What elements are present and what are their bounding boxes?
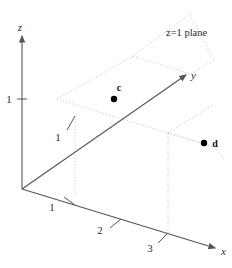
plane-edge-lower-right-diag (168, 104, 214, 133)
coordinate-diagram: z y x 1 1 1 2 3 c d z=1 plane (0, 0, 232, 268)
tick-label-z-1: 1 (6, 93, 12, 105)
tick-y-1 (67, 116, 75, 130)
base-plane-dotted-lines (168, 133, 214, 147)
z-axis-label: z (17, 21, 23, 33)
plane-inner-edge-top (133, 56, 191, 74)
tick-x-2 (110, 219, 121, 228)
z1-plane-annotation: z=1 plane (166, 27, 208, 38)
base-line-to-d-right (168, 133, 214, 147)
point-d-label: d (212, 138, 218, 149)
tick-x-3 (158, 233, 168, 243)
plane-edge-front-mid (112, 116, 168, 133)
tick-label-x-2: 2 (97, 224, 103, 236)
tick-marks (17, 99, 168, 243)
point-c-label: c (117, 82, 122, 93)
y-axis (22, 75, 186, 189)
vertical-dotted-droppers (75, 116, 168, 236)
point-d-dot (201, 140, 207, 146)
plane-edge-back-left (57, 56, 133, 99)
x-axis (22, 189, 215, 248)
tick-label-x-1: 1 (49, 201, 55, 213)
plane-edge-front-left (57, 99, 112, 116)
point-c-dot (111, 96, 117, 102)
tick-label-x-3: 3 (147, 242, 153, 254)
x-axis-label: x (220, 245, 226, 257)
figure-container: z y x 1 1 1 2 3 c d z=1 plane (0, 0, 232, 268)
y-axis-label: y (190, 69, 196, 81)
tick-label-y-1: 1 (55, 131, 61, 143)
